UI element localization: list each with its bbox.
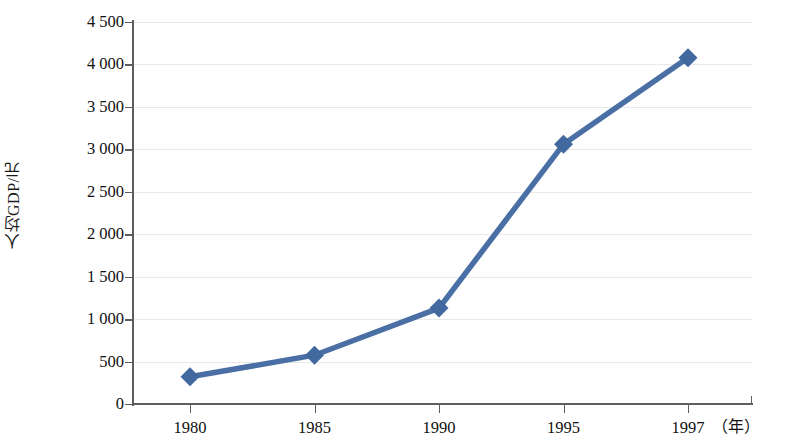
y-tick-label: 2 000 (38, 226, 124, 243)
gridline (133, 319, 752, 320)
gridline (133, 277, 752, 278)
gridline (133, 362, 752, 363)
gdp-per-capita-line-chart: 人均GDP/元 05001 0001 5002 0002 5003 0003 5… (0, 0, 788, 446)
gridline (133, 192, 752, 193)
x-axis-line (132, 403, 753, 405)
x-axis-unit-label: （年） (712, 419, 760, 435)
x-axis-end-cap (751, 396, 752, 405)
y-tick-label: 3 500 (38, 99, 124, 116)
y-tick-mark (125, 319, 133, 320)
y-tick-mark (125, 64, 133, 65)
x-tick-mark (564, 405, 565, 413)
x-tick-mark (190, 405, 191, 413)
y-tick-label: 500 (38, 353, 124, 370)
gridline (133, 22, 752, 23)
y-tick-mark (125, 107, 133, 108)
plot-area (133, 22, 752, 404)
y-tick-label: 4 000 (38, 56, 124, 73)
y-tick-label: 3 000 (38, 141, 124, 158)
x-tick-label: 1985 (270, 420, 360, 437)
gridline (133, 149, 752, 150)
y-axis-title: 人均GDP/元 (0, 0, 28, 410)
y-tick-label: 1 000 (38, 311, 124, 328)
x-tick-label: 1990 (394, 420, 484, 437)
y-tick-mark (125, 192, 133, 193)
x-tick-mark (439, 405, 440, 413)
y-tick-mark (125, 277, 133, 278)
y-tick-label: 2 500 (38, 184, 124, 201)
y-tick-mark (125, 22, 133, 23)
y-axis-tick-labels: 05001 0001 5002 0002 5003 0003 5004 0004… (30, 0, 124, 446)
x-tick-mark (688, 405, 689, 413)
x-tick-label: 1995 (519, 420, 609, 437)
y-tick-label: 1 500 (38, 268, 124, 285)
y-axis-title-label: 人均GDP/元 (2, 161, 26, 249)
gridline (133, 107, 752, 108)
gridline (133, 234, 752, 235)
y-tick-mark (125, 404, 133, 405)
x-tick-label: 1980 (145, 420, 235, 437)
x-tick-mark (315, 405, 316, 413)
y-axis-line (132, 20, 134, 406)
y-tick-label: 4 500 (38, 14, 124, 31)
y-tick-mark (125, 234, 133, 235)
y-tick-label: 0 (38, 396, 124, 413)
gridline (133, 64, 752, 65)
y-tick-mark (125, 362, 133, 363)
y-tick-mark (125, 149, 133, 150)
